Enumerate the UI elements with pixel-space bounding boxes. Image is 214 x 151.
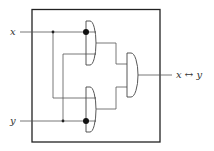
- negation-dot-top: [83, 29, 89, 35]
- and-gate-bottom: [86, 87, 96, 132]
- and-gate-top: [86, 21, 96, 65]
- junction-y: [62, 120, 65, 123]
- output-label: x ↔ y: [176, 69, 202, 80]
- wire-bottom-to-final: [96, 87, 127, 109]
- and-gate-final: [127, 53, 138, 97]
- input-label-y: y: [9, 115, 16, 126]
- circuit-diagram: x y x ↔ y: [0, 0, 214, 151]
- wire-top-to-final: [96, 43, 127, 64]
- input-label-x: x: [10, 26, 16, 37]
- circuit-box: [32, 10, 160, 143]
- junction-x: [52, 31, 55, 34]
- negation-dot-bottom: [83, 118, 89, 124]
